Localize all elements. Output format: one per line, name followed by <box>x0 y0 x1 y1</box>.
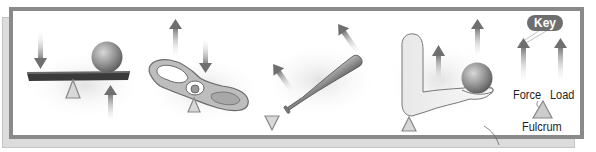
load-label: Load <box>550 88 574 102</box>
load-ball <box>462 63 493 94</box>
force-label: Force <box>513 88 541 102</box>
key-legend <box>517 30 567 118</box>
load-arrow-icon <box>554 38 567 82</box>
baseball-bat-example <box>260 20 380 130</box>
seesaw-example <box>25 31 145 122</box>
fulcrum-label: Fulcrum <box>522 120 562 134</box>
force-arrow-up-icon <box>169 19 182 57</box>
force-arrow-icon <box>517 38 530 82</box>
fulcrum-triangle-icon <box>265 116 279 130</box>
lever-diagram <box>0 0 596 152</box>
forearm-example <box>385 19 499 145</box>
key-badge: Key <box>527 15 563 31</box>
fulcrum-triangle-icon <box>402 117 416 131</box>
load-ball <box>92 42 123 73</box>
fulcrum-triangle-icon <box>533 101 552 118</box>
pull-tab-example <box>145 19 265 125</box>
